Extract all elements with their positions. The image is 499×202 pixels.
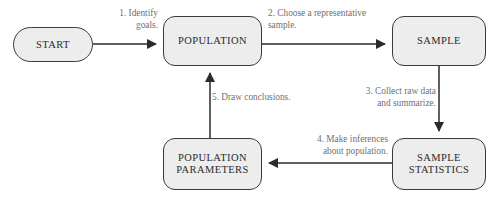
- node-sample-statistics: SAMPLE STATISTICS: [392, 138, 486, 190]
- edge-label-make-inferences: 4. Make inferences about population.: [268, 134, 388, 158]
- node-population-label: POPULATION: [178, 35, 247, 47]
- node-start-label: START: [36, 39, 70, 51]
- edge-label-draw-conclusions: 5. Draw conclusions.: [212, 92, 332, 104]
- flowchart-diagram: START POPULATION SAMPLE POPULATION PARAM…: [0, 0, 499, 202]
- edge-label-identify-goals: 1. Identify goals.: [84, 8, 158, 32]
- node-sample-label: SAMPLE: [417, 35, 461, 47]
- node-sample: SAMPLE: [392, 16, 486, 66]
- node-population-parameters: POPULATION PARAMETERS: [163, 138, 262, 190]
- node-population-parameters-label: POPULATION PARAMETERS: [176, 152, 248, 176]
- edge-label-collect-raw-data: 3. Collect raw data and summarize.: [338, 86, 436, 110]
- edge-label-choose-sample: 2. Choose a representative sample.: [268, 8, 400, 32]
- node-start: START: [13, 27, 93, 62]
- node-population: POPULATION: [163, 16, 262, 66]
- node-sample-statistics-label: SAMPLE STATISTICS: [409, 152, 469, 176]
